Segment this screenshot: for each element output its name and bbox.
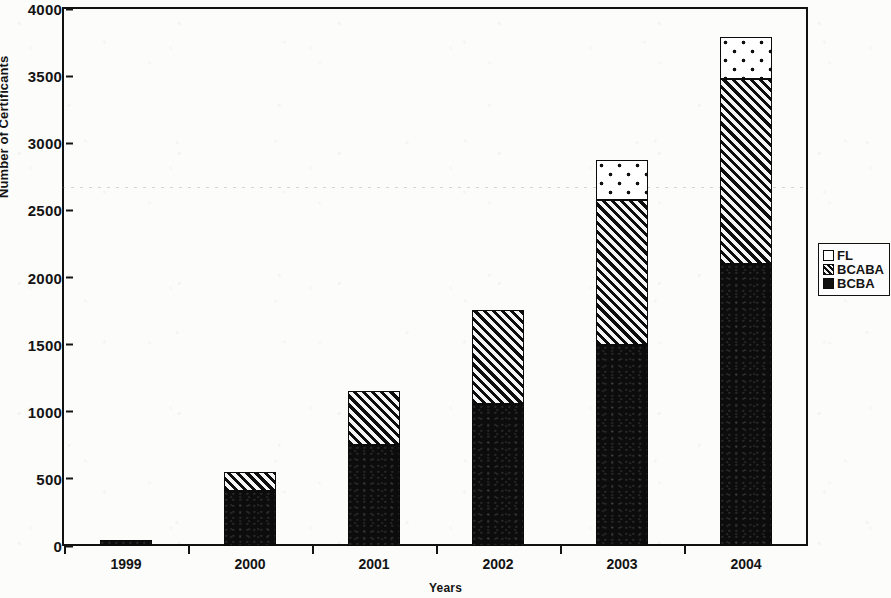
legend-item-label: BCBA [837,277,875,290]
x-axis-title: Years [0,581,891,595]
y-tick-label: 3500 [28,68,62,85]
legend-item-fl[interactable]: FL [823,249,884,262]
bar-column[interactable] [596,9,648,546]
y-tick-label: 3000 [28,135,62,152]
legend-item-bcba[interactable]: BCBA [823,277,884,290]
bar-segment-bcba[interactable] [472,404,524,546]
y-tick: 0 [53,538,64,555]
chart-legend: FLBCABABCBA [818,243,890,296]
bar-segment-bcba[interactable] [224,491,276,546]
y-tick-mark [66,478,73,480]
bar-segment-bcaba[interactable] [596,200,648,344]
bar-column[interactable] [472,9,524,546]
bar-segment-bcba[interactable] [720,264,772,546]
y-tick-label: 500 [36,470,62,487]
y-tick-mark [66,344,73,346]
bar-segment-bcaba[interactable] [472,310,524,404]
x-axis-label: 2001 [358,556,389,572]
y-tick: 2500 [28,202,64,219]
bar-column[interactable] [224,9,276,546]
x-tick-mark [312,546,314,554]
x-tick-mark [684,546,686,554]
bar-segment-bcba[interactable] [348,445,400,546]
y-axis-title: Number of Certificants [0,0,11,198]
x-axis-label: 2000 [234,556,265,572]
y-tick: 3000 [28,135,64,152]
x-tick-mark [188,546,190,554]
bar-column[interactable] [100,9,152,546]
x-tick-mark [560,546,562,554]
y-tick-label: 0 [53,538,62,555]
fl-swatch-icon [823,250,834,261]
x-axis-label: 2003 [606,556,637,572]
y-tick: 4000 [28,1,64,18]
y-tick-mark [66,209,73,211]
legend-item-label: BCABA [837,263,884,276]
bar-segment-bcba[interactable] [596,345,648,546]
bar-segment-fl[interactable] [596,160,648,200]
y-tick-mark [66,142,73,144]
x-axis-label: 2002 [482,556,513,572]
legend-item-label: FL [837,249,853,262]
y-tick-mark [66,8,73,10]
y-tick-mark [66,75,73,77]
y-tick-label: 1500 [28,336,62,353]
y-tick-mark [66,277,73,279]
bar-segment-bcaba[interactable] [720,79,772,264]
plot-area: 05001000150020002500300035004000 [64,9,808,546]
bar-segment-fl[interactable] [720,37,772,79]
y-tick-label: 2500 [28,202,62,219]
bcba-swatch-icon [823,278,834,289]
y-tick: 3500 [28,68,64,85]
x-axis-label: 2004 [730,556,761,572]
legend-item-bcaba[interactable]: BCABA [823,263,884,276]
bar-segment-bcba[interactable] [100,540,152,546]
y-tick-label: 4000 [28,1,62,18]
y-tick-mark [66,545,73,547]
bcaba-swatch-icon [823,264,834,275]
y-tick: 1500 [28,336,64,353]
bar-column[interactable] [348,9,400,546]
bar-segment-bcaba[interactable] [348,391,400,445]
x-axis-label: 1999 [110,556,141,572]
x-tick-mark [64,546,66,554]
x-tick-mark [436,546,438,554]
y-tick-mark [66,411,73,413]
y-tick: 500 [36,470,64,487]
y-tick: 2000 [28,269,64,286]
y-tick: 1000 [28,403,64,420]
bar-column[interactable] [720,9,772,546]
y-tick-label: 1000 [28,403,62,420]
bar-segment-bcaba[interactable] [224,472,276,491]
chart-page: Number of Certificants 05001000150020002… [0,0,891,598]
y-tick-label: 2000 [28,269,62,286]
